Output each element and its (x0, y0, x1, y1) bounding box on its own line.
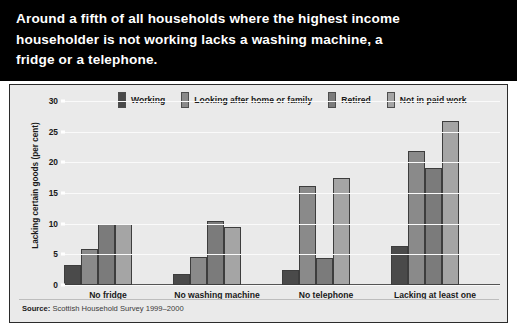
bar[interactable] (64, 265, 81, 285)
y-tick-mark (61, 284, 65, 287)
header-line-3: fridge or a telephone. (16, 50, 503, 71)
bar[interactable] (391, 246, 408, 285)
gridline (64, 285, 500, 286)
bar[interactable] (190, 257, 207, 285)
gridline (64, 132, 500, 133)
plot-area: No fridgeNo washing machineNo telephoneL… (64, 101, 500, 285)
gridline (64, 224, 500, 225)
source-divider (19, 299, 499, 300)
bar[interactable] (207, 221, 224, 285)
gridline (64, 254, 500, 255)
y-axis-title: Lacking certain goods (per cent) (31, 106, 40, 266)
chart-panel: WorkingLooking after home or familyRetir… (9, 84, 508, 323)
gridline (64, 193, 500, 194)
source-text: Scottish Household Survey 1999–2000 (50, 304, 183, 313)
bar[interactable] (173, 274, 190, 285)
bar[interactable] (425, 168, 442, 285)
gridline (64, 101, 500, 102)
y-tick-label: 5 (53, 249, 58, 259)
y-tick-mark (61, 161, 65, 164)
y-tick-label: 30 (49, 96, 58, 106)
bar[interactable] (224, 227, 241, 285)
y-tick-label: 10 (49, 219, 58, 229)
bar[interactable] (408, 151, 425, 285)
y-tick-label: 0 (53, 280, 58, 290)
y-tick-mark (61, 100, 65, 103)
y-tick-label: 20 (49, 157, 58, 167)
header-banner: Around a fifth of all households where t… (0, 0, 517, 81)
chart-page: Around a fifth of all households where t… (0, 0, 517, 332)
y-tick-label: 15 (49, 188, 58, 198)
bar[interactable] (316, 258, 333, 285)
gridline (64, 162, 500, 163)
source-note: Source: Scottish Household Survey 1999–2… (22, 304, 184, 313)
header-line-1: Around a fifth of all households where t… (16, 9, 503, 30)
header-line-2: householder is not working lacks a washi… (16, 30, 503, 51)
bar[interactable] (442, 121, 459, 285)
bar[interactable] (299, 186, 316, 285)
y-tick-label: 25 (49, 127, 58, 137)
y-tick-mark (61, 253, 65, 256)
bar[interactable] (282, 270, 299, 285)
source-label: Source: (22, 304, 50, 313)
y-tick-mark (61, 192, 65, 195)
y-tick-mark (61, 222, 65, 225)
y-tick-mark (61, 130, 65, 133)
